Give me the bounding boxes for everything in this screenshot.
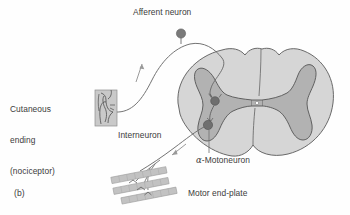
label-cutaneous-line-3: (nociceptor) <box>10 166 55 176</box>
central-canal <box>255 101 258 104</box>
motor-end-plate-group <box>111 166 177 206</box>
label-cutaneous-line-2: ending <box>10 135 55 145</box>
label-motoneuron-text: -Motoneuron <box>202 155 250 165</box>
label-alpha-motoneuron: α-Motoneuron <box>196 155 250 165</box>
panel-label: (b) <box>14 188 25 198</box>
cutaneous-ending-receptor <box>95 90 117 126</box>
motoneuron-soma <box>203 120 212 129</box>
reflex-arc-figure: Afferent neuron Cutaneous ending (nocice… <box>0 0 350 215</box>
efferent-direction-arrow <box>172 144 186 155</box>
spinal-cord-cross-section <box>178 48 334 156</box>
afferent-neuron-soma <box>176 29 185 38</box>
afferent-direction-arrow <box>136 64 144 82</box>
label-afferent-neuron: Afferent neuron <box>133 7 191 17</box>
label-cutaneous-ending: Cutaneous ending (nociceptor) <box>10 83 55 197</box>
label-interneuron: Interneuron <box>118 130 161 140</box>
label-motor-end-plate: Motor end-plate <box>188 188 247 198</box>
interneuron-soma <box>211 97 220 106</box>
label-cutaneous-line-1: Cutaneous <box>10 104 55 114</box>
